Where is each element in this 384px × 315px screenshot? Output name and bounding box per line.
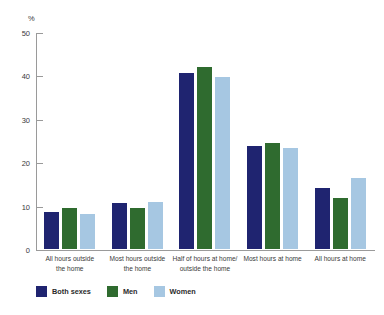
y-axis-tick-label-40: 40 [2, 72, 30, 81]
x-axis-line [36, 250, 375, 251]
legend-item[interactable]: Men [107, 286, 138, 297]
legend-swatch-both-sexes [36, 286, 47, 297]
bar [332, 197, 349, 250]
bar [282, 147, 299, 250]
y-axis-unit-label: % [28, 14, 35, 23]
bar [178, 72, 195, 250]
legend-item[interactable]: Both sexes [36, 286, 91, 297]
bar-group [104, 33, 172, 250]
y-axis-tick-label-10: 10 [2, 202, 30, 211]
bar-group [239, 33, 307, 250]
legend-swatch-women [154, 286, 165, 297]
category-label-line: outside the home [165, 264, 245, 274]
y-axis-tick-label-20: 20 [2, 159, 30, 168]
bar-group [306, 33, 374, 250]
category-label-line: All hours at home [300, 254, 380, 264]
bar [314, 187, 331, 250]
y-axis-tick-label-0: 0 [2, 246, 30, 255]
legend-item[interactable]: Women [154, 286, 196, 297]
bar-group [171, 33, 239, 250]
bar-chart: % 50403020100 All hours outsidethe homeM… [0, 0, 384, 315]
y-axis-tick-label-30: 30 [2, 115, 30, 124]
legend-item-label: Men [123, 287, 138, 296]
chart-legend: Both sexesMenWomen [36, 286, 196, 297]
bar [214, 76, 231, 250]
bar [79, 213, 96, 250]
bar [350, 177, 367, 250]
bar [43, 211, 60, 250]
legend-item-label: Women [170, 287, 196, 296]
x-axis-category-label: All hours at home [300, 254, 380, 264]
legend-item-label: Both sexes [52, 287, 91, 296]
bar [147, 201, 164, 250]
bar [111, 202, 128, 250]
bar [129, 207, 146, 250]
y-axis-tick-0 [36, 250, 43, 251]
bar [264, 142, 281, 251]
bar [196, 66, 213, 250]
bar [61, 207, 78, 250]
bar-group [36, 33, 104, 250]
bar [246, 145, 263, 250]
y-axis-tick-label-50: 50 [2, 29, 30, 38]
legend-swatch-men [107, 286, 118, 297]
